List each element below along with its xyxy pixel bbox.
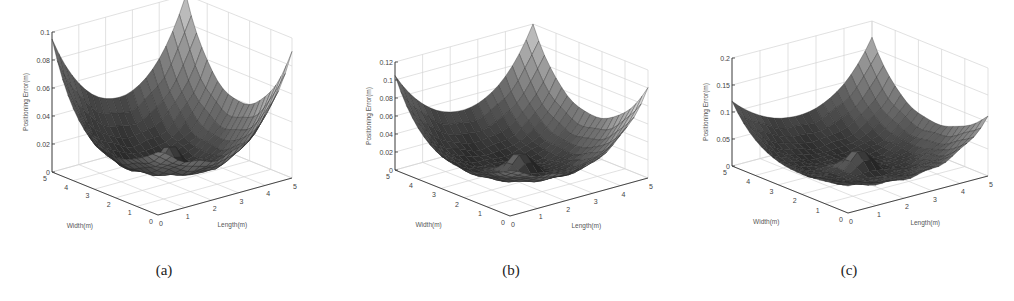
surface-plot-b: 00.020.040.060.080.10.12012345012345Posi… [338,0,676,301]
z-axis-label: Positioning Error(m) [702,83,710,141]
width-tick-label: 2 [107,201,111,208]
length-tick-label: 1 [539,213,543,220]
width-tick-label: 3 [432,191,436,198]
length-tick-label: 3 [933,196,937,203]
z-axis-label: Positioning Error(m) [22,73,30,131]
caption-a: (a) [134,262,194,279]
subplot-b: 00.020.040.060.080.10.12012345012345Posi… [338,0,676,301]
width-tick-label: 1 [816,207,820,214]
z-tick-label: 0.05 [716,136,730,143]
width-tick-label: 4 [64,184,68,191]
length-tick-label: 0 [511,221,515,228]
z-tick-label: 0.08 [379,95,393,102]
z-tick-label: 0.15 [716,82,730,89]
length-tick-label: 4 [961,188,965,195]
z-tick-label: 0.2 [720,55,730,62]
surface-plot-c: 00.050.10.150.2012345012345Positioning E… [676,0,1014,301]
width-tick-label: 2 [793,197,797,204]
length-axis-label: Length(m) [910,219,940,227]
z-tick-label: 0.12 [379,59,393,66]
width-tick-label: 4 [746,178,750,185]
z-tick-label: 0.02 [379,149,393,156]
z-axis-label: Positioning Error(m) [365,87,373,145]
width-tick-label: 1 [128,209,132,216]
width-tick-label: 1 [478,210,482,217]
width-axis-label: Width(m) [415,221,441,229]
width-tick-label: 5 [723,169,727,176]
width-tick-label: 4 [409,182,413,189]
length-tick-label: 5 [293,183,297,190]
length-tick-label: 1 [877,211,881,218]
z-tick-label: 0.02 [36,141,50,148]
width-tick-label: 3 [769,188,773,195]
length-tick-label: 0 [159,220,163,227]
length-tick-label: 2 [566,206,570,213]
length-tick-label: 3 [239,198,243,205]
z-tick-label: 0.1 [40,29,50,36]
width-tick-label: 2 [455,201,459,208]
length-tick-label: 5 [989,181,993,188]
z-tick-label: 0.04 [36,113,50,120]
width-tick-label: 0 [501,219,505,226]
subplot-c: 00.050.10.150.2012345012345Positioning E… [676,0,1014,301]
caption-b: (b) [481,262,541,279]
length-tick-label: 2 [905,203,909,210]
z-tick-label: 0.08 [36,57,50,64]
subplot-a: 00.020.040.060.080.1012345012345Position… [0,0,338,301]
width-tick-label: 0 [839,216,843,223]
surface-mesh [732,37,988,186]
z-tick-label: 0.1 [720,109,730,116]
length-tick-label: 2 [213,205,217,212]
width-tick-label: 0 [149,218,153,225]
length-tick-label: 3 [594,198,598,205]
length-axis-label: Length(m) [571,222,601,230]
width-axis-label: Width(m) [753,218,779,226]
z-tick-label: 0.04 [379,131,393,138]
length-tick-label: 4 [621,191,625,198]
width-tick-label: 5 [43,175,47,182]
z-tick-label: 0.06 [36,85,50,92]
z-tick-label: 0.1 [383,77,393,84]
z-tick-label: 0.06 [379,113,393,120]
length-tick-label: 5 [649,183,653,190]
caption-c: (c) [819,262,879,279]
width-tick-label: 3 [85,192,89,199]
length-tick-label: 0 [849,218,853,225]
surface-mesh [52,0,292,176]
surface-mesh [395,24,648,182]
length-axis-label: Length(m) [218,221,248,229]
length-tick-label: 1 [186,213,190,220]
surface-plot-a: 00.020.040.060.080.1012345012345Position… [0,0,338,301]
width-tick-label: 5 [386,173,390,180]
length-tick-label: 4 [266,190,270,197]
width-axis-label: Width(m) [67,222,93,230]
